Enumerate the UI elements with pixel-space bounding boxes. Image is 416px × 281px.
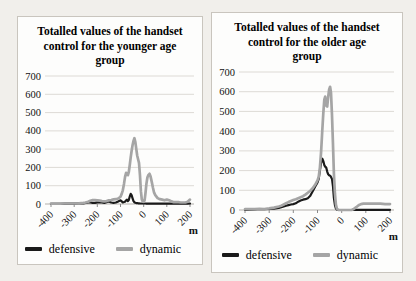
svg-text:-200: -200 — [80, 209, 101, 230]
svg-text:100: 100 — [152, 209, 171, 228]
svg-text:0: 0 — [36, 199, 41, 210]
series-dynamic — [245, 87, 390, 210]
svg-text:-100: -100 — [104, 209, 125, 230]
svg-text:100: 100 — [351, 215, 370, 234]
svg-text:600: 600 — [25, 89, 41, 100]
chart-panel-older: Totalled values of the handset control f… — [211, 12, 403, 273]
svg-text:300: 300 — [25, 144, 41, 155]
svg-text:-400: -400 — [228, 215, 249, 236]
legend-swatch-defensive — [25, 247, 42, 251]
legend-younger: defensive dynamic — [25, 238, 195, 260]
chart-panel-younger: Totalled values of the handset control f… — [17, 16, 203, 265]
svg-text:700: 700 — [219, 67, 235, 78]
legend-swatch-defensive — [222, 253, 239, 257]
legend-label-dynamic: dynamic — [140, 242, 181, 257]
series-dynamic — [51, 138, 190, 203]
svg-text:-100: -100 — [301, 215, 322, 236]
legend-label-dynamic: dynamic — [337, 248, 378, 263]
legend-swatch-dynamic — [116, 247, 133, 251]
svg-text:-300: -300 — [252, 215, 273, 236]
svg-text:0: 0 — [335, 215, 346, 226]
chart-canvas-younger: 0100200300400500600700-400-300-200-10001… — [19, 70, 201, 240]
legend-label-defensive: defensive — [49, 242, 95, 257]
svg-text:0: 0 — [230, 205, 235, 216]
chart-title-older: Totalled values of the handset control f… — [232, 13, 382, 66]
svg-text:400: 400 — [25, 125, 41, 136]
legend-label-defensive: defensive — [246, 248, 292, 263]
svg-text:m: m — [389, 230, 398, 242]
svg-text:300: 300 — [219, 145, 235, 156]
scanned-figure-page: Totalled values of the handset control f… — [0, 0, 416, 281]
series-defensive — [245, 159, 390, 210]
chart-canvas-older: 0100200300400500600700-400-300-200-10001… — [213, 66, 401, 246]
svg-text:500: 500 — [219, 106, 235, 117]
svg-text:200: 200 — [219, 165, 235, 176]
svg-text:-200: -200 — [276, 215, 297, 236]
legend-swatch-dynamic — [313, 253, 330, 257]
svg-text:700: 700 — [25, 71, 41, 82]
svg-text:100: 100 — [219, 185, 235, 196]
svg-text:500: 500 — [25, 107, 41, 118]
svg-text:600: 600 — [219, 86, 235, 97]
svg-text:-300: -300 — [57, 209, 78, 230]
chart-title-younger: Totalled values of the handset control f… — [35, 17, 185, 70]
svg-text:200: 200 — [25, 162, 41, 173]
svg-text:0: 0 — [137, 209, 148, 220]
svg-text:400: 400 — [219, 126, 235, 137]
svg-text:-400: -400 — [34, 209, 55, 230]
svg-text:m: m — [189, 224, 198, 236]
svg-text:100: 100 — [25, 180, 41, 191]
legend-older: defensive dynamic — [222, 244, 392, 266]
